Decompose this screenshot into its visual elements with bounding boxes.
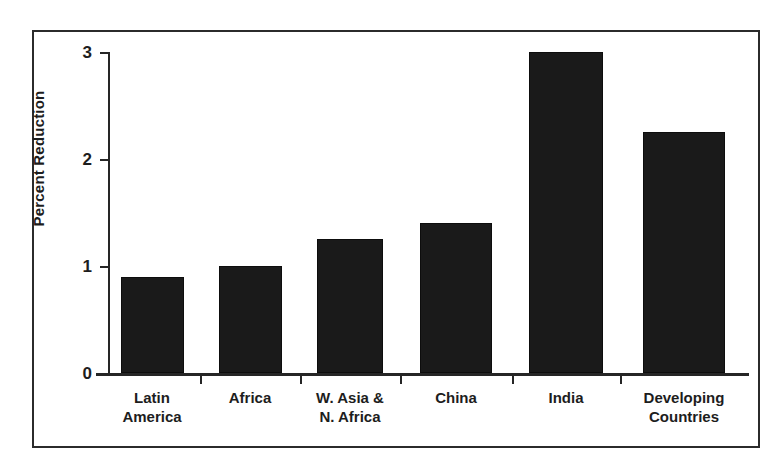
- y-tick-label-3-wrap: 3: [62, 44, 92, 61]
- x-axis-category-label-india: India: [501, 389, 631, 408]
- x-tick-mark-2: [300, 376, 302, 384]
- bar-w-asia-n-africa: [317, 239, 383, 373]
- y-tick-label-1-wrap: 1: [62, 258, 92, 275]
- x-tick-mark-5: [620, 376, 622, 384]
- x-axis-category-label-developing-countries: Developing Countries: [619, 389, 749, 427]
- chart-screenshot: Percent Reduction 0 1 2 3 Latin America …: [0, 0, 784, 474]
- bar-developing-countries: [643, 132, 725, 373]
- y-tick-label-2: 2: [66, 151, 92, 168]
- y-tick-label-0-wrap: 0: [62, 365, 92, 382]
- y-axis-line: [108, 52, 110, 374]
- y-tick-mark-3: [100, 52, 110, 54]
- x-tick-mark-3: [400, 376, 402, 384]
- x-tick-mark-4: [512, 376, 514, 384]
- y-tick-label-1: 1: [66, 258, 92, 275]
- y-tick-mark-1: [100, 266, 110, 268]
- x-tick-mark-1: [200, 376, 202, 384]
- bar-india: [529, 52, 603, 373]
- y-tick-mark-2: [100, 159, 110, 161]
- y-tick-label-3: 3: [66, 44, 92, 61]
- y-tick-label-0: 0: [66, 365, 92, 382]
- bar-africa: [219, 266, 282, 373]
- y-tick-mark-0: [100, 373, 110, 375]
- y-axis-title: Percent Reduction: [30, 69, 47, 249]
- x-axis-line: [96, 373, 749, 376]
- y-tick-label-2-wrap: 2: [62, 151, 92, 168]
- bar-china: [420, 223, 492, 373]
- bar-latin-america: [121, 277, 184, 373]
